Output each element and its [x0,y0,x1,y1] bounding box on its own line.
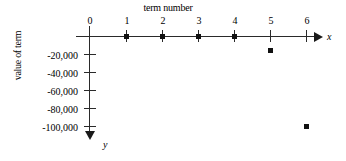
y-axis-label: y [103,139,107,150]
data-point-1 [124,34,129,39]
data-point-5 [268,48,273,53]
x-axis-label: x [327,31,331,42]
y-tick-40000 [84,72,96,73]
data-point-6 [304,124,309,129]
y-tick-60000 [84,90,96,91]
x-tick-label-2: 2 [161,15,166,26]
y-tick-label-20000: -20,000 [32,50,78,61]
x-axis-arrow-icon [314,32,323,42]
y-tick-label-40000: -40,000 [32,68,78,79]
y-tick-20000 [84,54,96,55]
y-tick-100000 [84,126,96,127]
x-tick-label-0: 0 [88,15,93,26]
x-tick-label-3: 3 [197,15,202,26]
y-tick-label-60000: -60,000 [32,86,78,97]
x-tick-label-1: 1 [125,15,130,26]
chart-figure: term number value of term x y 0 1 2 3 4 … [0,0,346,161]
data-point-2 [160,34,165,39]
data-point-4 [232,34,237,39]
x-tick-6 [306,30,307,42]
chart-title: term number [143,2,192,13]
x-tick-label-6: 6 [305,15,310,26]
y-axis-line [89,26,90,134]
y-axis-title: value of term [12,16,23,96]
y-tick-label-80000: -80,000 [32,104,78,115]
x-tick-label-4: 4 [233,15,238,26]
y-tick-label-100000: -100,000 [29,122,78,133]
y-axis-arrow-icon [85,131,95,140]
data-point-3 [196,34,201,39]
x-tick-5 [270,30,271,42]
y-tick-80000 [84,108,96,109]
x-tick-label-5: 5 [269,15,274,26]
